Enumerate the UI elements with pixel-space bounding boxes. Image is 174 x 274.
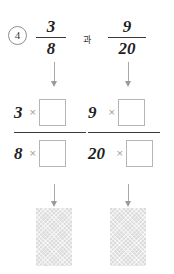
given-fraction-right-denominator: 20 [106,39,148,58]
problem-number-badge: 4 [8,26,27,45]
arrow-shaft [128,184,129,202]
arrow-shaft [54,62,55,82]
problem-header: 4 3 8 과 9 20 [0,8,174,60]
multiply-icon: × [116,145,124,162]
arrow-down-icon-right-bottom [124,184,133,208]
result-answer-area-left[interactable] [36,208,72,266]
worksheet-problem: 4 3 8 과 9 20 3 × 8 × [0,0,174,274]
given-fraction-right: 9 20 [106,17,148,58]
arrow-head [51,81,57,87]
fraction-bar [108,37,146,38]
expression-left-numerator-row: 3 × [14,92,92,132]
given-fraction-right-numerator: 9 [106,17,148,36]
arrow-head [125,201,131,207]
answer-box-left-numerator[interactable] [39,99,66,126]
answer-box-left-denominator[interactable] [39,140,66,167]
answer-box-right-numerator[interactable] [118,99,145,126]
expression-left: 3 × 8 × [14,92,92,173]
expression-right: 9 × 20 × [88,92,166,173]
expression-right-numerator-row: 9 × [88,92,166,132]
multiply-icon: × [29,104,37,121]
multiply-icon: × [29,145,37,162]
arrow-head [51,201,57,207]
arrow-down-icon-right-top [124,62,133,88]
given-fraction-left-numerator: 3 [34,17,68,36]
result-answer-area-right[interactable] [110,208,146,266]
expression-left-denominator-row: 8 × [14,133,92,173]
arrow-down-icon-left-top [50,62,59,88]
given-fraction-left-denominator: 8 [34,39,68,58]
multiply-icon: × [108,104,116,121]
conjunction-label: 과 [76,35,98,46]
arrow-down-icon-left-bottom [50,184,59,208]
arrow-shaft [128,62,129,82]
arrow-shaft [54,184,55,202]
answer-box-right-denominator[interactable] [126,140,153,167]
expression-left-numerator-operand: 3 [14,104,27,121]
arrow-head [125,81,131,87]
fraction-bar [36,37,66,38]
expression-left-denominator-operand: 8 [14,145,27,162]
expression-right-denominator-operand: 20 [88,145,114,162]
given-fraction-left: 3 8 [34,17,68,58]
expression-right-numerator-operand: 9 [88,104,104,121]
expression-right-denominator-row: 20 × [88,133,166,173]
